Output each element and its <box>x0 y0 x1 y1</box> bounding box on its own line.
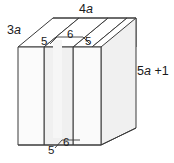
height-coefficient: 5 <box>137 64 144 78</box>
front-face-right-slab <box>73 47 101 145</box>
dimension-label-groove-top-left: 5 <box>41 36 47 48</box>
front-face-left-slab <box>18 47 44 145</box>
dimension-label-width: 4a <box>79 3 93 16</box>
width-variable: a <box>86 2 93 16</box>
dimension-label-height: 5a +1 <box>137 65 169 78</box>
dimension-label-groove-top-right: 5 <box>85 36 91 48</box>
height-variable: a <box>144 64 151 78</box>
dimension-label-depth: 3a <box>7 24 21 37</box>
width-coefficient: 4 <box>79 2 86 16</box>
geometry-figure: 3a 4a 5a +1 5 6 5 5 6 <box>0 0 174 163</box>
groove-left-wall <box>53 40 62 138</box>
depth-coefficient: 3 <box>7 23 14 37</box>
height-constant: +1 <box>154 64 168 78</box>
dimension-label-groove-bottom-middle: 6 <box>63 137 69 149</box>
dimension-label-groove-bottom-left: 5 <box>48 145 54 157</box>
prism-drawing <box>0 0 174 163</box>
depth-variable: a <box>14 23 21 37</box>
dimension-label-groove-top-middle: 6 <box>67 29 73 41</box>
